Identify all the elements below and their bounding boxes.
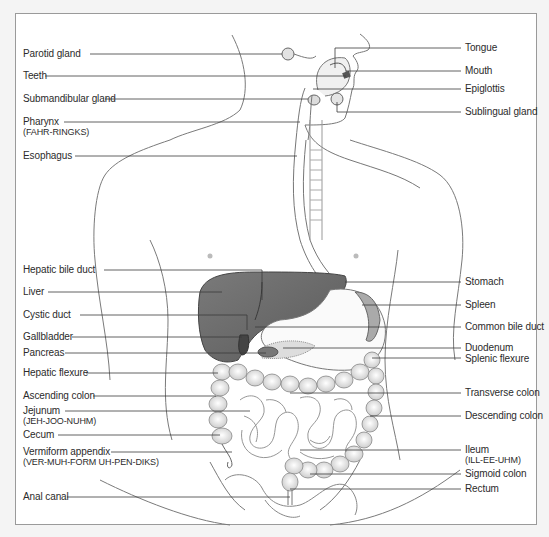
small-intestine	[240, 396, 356, 459]
label-jejunum: Jejunum (JEH-JOO-NUHM)	[23, 405, 96, 427]
label-transverse-colon: Transverse colon	[465, 387, 540, 398]
label-descending-colon: Descending colon	[465, 410, 543, 421]
label-epiglottis: Epiglottis	[465, 83, 505, 94]
label-pancreas: Pancreas	[23, 347, 64, 358]
label-ileum: Ileum (ILL-EE-UHM)	[465, 444, 521, 466]
label-common-bile-duct: Common bile duct	[465, 321, 544, 332]
label-rectum: Rectum	[465, 483, 499, 494]
label-hepatic-bile-duct: Hepatic bile duct	[23, 264, 95, 275]
label-mouth: Mouth	[465, 65, 492, 76]
label-anal-canal: Anal canal	[23, 491, 69, 502]
colon	[209, 352, 384, 491]
label-jejunum-pronunciation: (JEH-JOO-NUHM)	[23, 416, 96, 427]
label-pharynx-name: Pharynx	[23, 116, 59, 127]
label-spleen: Spleen	[465, 299, 496, 310]
label-sublingual-gland: Sublingual gland	[465, 106, 537, 117]
label-tongue: Tongue	[465, 42, 497, 53]
label-ileum-name: Ileum	[465, 444, 489, 455]
label-pharynx-pronunciation: (FAHR-RINGKS)	[23, 127, 89, 138]
label-splenic-flexure: Splenic flexure	[465, 353, 529, 364]
head-profile	[282, 34, 420, 188]
label-vermiform-appendix: Vermiform appendix (VER-MUH-FORM UH-PEN-…	[23, 446, 159, 468]
esophagus	[293, 120, 340, 290]
label-liver: Liver	[23, 286, 44, 297]
label-ileum-pronunciation: (ILL-EE-UHM)	[465, 455, 521, 466]
label-vermiform-appendix-pronunciation: (VER-MUH-FORM UH-PEN-DIKS)	[23, 457, 159, 468]
label-submandibular-gland: Submandibular gland	[23, 93, 116, 104]
label-pharynx: Pharynx (FAHR-RINGKS)	[23, 116, 89, 138]
label-ascending-colon: Ascending colon	[23, 390, 95, 401]
label-parotid-gland: Parotid gland	[23, 48, 81, 59]
label-duodenum: Duodenum	[465, 342, 513, 353]
right-leader-lines	[255, 48, 461, 489]
label-vermiform-appendix-name: Vermiform appendix	[23, 446, 110, 457]
label-cecum: Cecum	[23, 429, 54, 440]
label-sigmoid-colon: Sigmoid colon	[465, 468, 527, 479]
label-gallbladder: Gallbladder	[23, 331, 73, 342]
label-teeth: Teeth	[23, 70, 47, 81]
label-stomach: Stomach	[465, 276, 504, 287]
label-esophagus: Esophagus	[23, 150, 72, 161]
label-jejunum-name: Jejunum	[23, 405, 60, 416]
label-hepatic-flexure: Hepatic flexure	[23, 367, 88, 378]
label-cystic-duct: Cystic duct	[23, 309, 71, 320]
